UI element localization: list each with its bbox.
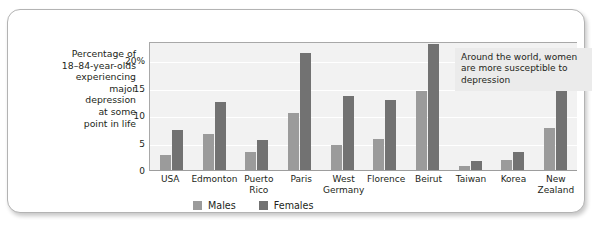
bar-females: [428, 44, 439, 170]
annotation-callout: Around the world, women are more suscept…: [455, 48, 592, 91]
x-tick-label: Korea: [492, 174, 534, 195]
bar-males: [544, 128, 555, 170]
bar-females: [215, 102, 226, 170]
bar-females: [172, 130, 183, 170]
y-tick-label: 0: [115, 166, 145, 176]
bar-females: [556, 86, 567, 170]
y-axis-tick-labels: 05101520%: [109, 42, 145, 171]
bar-males: [288, 113, 299, 170]
bar-group: [406, 43, 449, 170]
x-tick-label: Beirut: [407, 174, 449, 195]
legend-item-males: Males: [193, 200, 236, 211]
bar-males: [245, 152, 256, 170]
bar-males: [331, 145, 342, 170]
bar-males: [416, 91, 427, 170]
x-tick-label: Paris: [280, 174, 322, 195]
y-tick-label: 10: [115, 111, 145, 121]
bar-females: [343, 96, 354, 170]
bar-females: [513, 152, 524, 170]
x-tick-label: Taiwan: [450, 174, 492, 195]
bar-males: [160, 155, 171, 170]
y-tick-label: 15: [115, 84, 145, 94]
x-tick-label: Edmonton: [191, 174, 237, 195]
bar-females: [257, 140, 268, 170]
chart-card: Percentage of18–84-year-oldsexperiencing…: [7, 9, 585, 213]
bar-group: [193, 43, 236, 170]
bar-females: [385, 100, 396, 170]
bar-group: [150, 43, 193, 170]
x-tick-label: USA: [149, 174, 191, 195]
bar-males: [203, 134, 214, 170]
x-tick-label: New Zealand: [535, 174, 577, 195]
chart-legend: MalesFemales: [193, 200, 313, 211]
bar-group: [364, 43, 407, 170]
bar-group: [321, 43, 364, 170]
y-tick-label: 5: [115, 139, 145, 149]
x-axis-line: [150, 170, 577, 172]
legend-swatch-icon: [259, 201, 268, 210]
bar-females: [300, 53, 311, 170]
bar-males: [373, 139, 384, 170]
bar-group: [235, 43, 278, 170]
y-tick-label: 20%: [115, 56, 145, 66]
x-tick-label: Puerto Rico: [238, 174, 280, 195]
legend-item-females: Females: [259, 200, 314, 211]
x-axis-tick-labels: USAEdmontonPuerto RicoParisWest GermanyF…: [149, 174, 577, 195]
legend-label: Females: [274, 200, 314, 211]
bar-group: [278, 43, 321, 170]
legend-swatch-icon: [193, 201, 202, 210]
legend-label: Males: [208, 200, 236, 211]
x-tick-label: West Germany: [322, 174, 364, 195]
x-tick-label: Florence: [365, 174, 407, 195]
